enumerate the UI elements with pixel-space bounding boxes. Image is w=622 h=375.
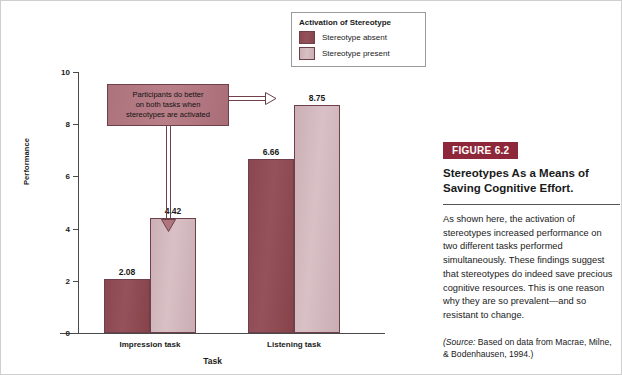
group-label-impression-task: Impression task (90, 340, 210, 349)
y-tick-mark (73, 333, 78, 334)
bar-impression-task-stereotype-absent: 2.08 (104, 279, 150, 333)
y-axis-label: Performance (22, 138, 31, 185)
figure-caption-panel: FIGURE 6.2 Stereotypes As a Means of Sav… (443, 0, 622, 375)
callout-arrow-down-shaft (166, 126, 167, 221)
callout-line-1: Participants do better (112, 90, 224, 100)
y-tick-label: 4 (66, 224, 70, 233)
bar-listening-task-stereotype-present: 8.75 (294, 105, 340, 333)
bar-value-label: 6.66 (263, 147, 280, 157)
callout-line-3: stereotypes are activated (112, 110, 224, 120)
bar-impression-task-stereotype-present: 4.42 (150, 218, 196, 333)
bar-value-label: 8.75 (309, 93, 326, 103)
y-tick-label: 10 (61, 68, 70, 77)
legend-item-stereotype-absent: Stereotype absent (299, 31, 418, 44)
y-tick-label: 0 (66, 329, 70, 338)
y-tick-label: 6 (66, 172, 70, 181)
legend-swatch-icon-absent (299, 31, 315, 44)
legend-swatch-icon-present (299, 47, 315, 60)
bar-value-label: 2.08 (119, 267, 136, 277)
bar-listening-task-stereotype-absent: 6.66 (248, 159, 294, 333)
annotation-callout: Participants do better on both tasks whe… (107, 84, 229, 126)
legend-label-absent: Stereotype absent (322, 33, 387, 42)
y-tick-label: 2 (66, 276, 70, 285)
callout-arrow-down-shaft-2 (170, 126, 171, 221)
panel-divider (443, 204, 620, 205)
figure-page: 0246810 Performance Task 2.084.426.668.7… (0, 0, 622, 375)
legend-label-present: Stereotype present (322, 49, 390, 58)
figure-number-badge: FIGURE 6.2 (443, 142, 518, 159)
source-keyword: (Source: (443, 337, 475, 347)
x-axis-line (60, 333, 385, 334)
y-tick-label: 8 (66, 120, 70, 129)
x-axis-label: Task (0, 356, 425, 366)
callout-arrow-right-shaft (229, 96, 267, 97)
bar-chart: 0246810 Performance Task 2.084.426.668.7… (0, 0, 425, 375)
figure-source-citation: (Source: Based on data from Macrae, Miln… (443, 336, 622, 361)
callout-arrow-right-shaft-2 (229, 100, 267, 101)
figure-title: Stereotypes As a Means of Saving Cogniti… (443, 166, 622, 196)
legend-title: Activation of Stereotype (299, 18, 418, 27)
legend-item-stereotype-present: Stereotype present (299, 47, 418, 60)
callout-arrow-right-head-icon (265, 92, 277, 105)
group-label-listening-task: Listening task (234, 340, 354, 349)
legend: Activation of Stereotype Stereotype abse… (291, 12, 426, 67)
callout-line-2: on both tasks when (112, 100, 224, 110)
figure-body-text: As shown here, the activation of stereot… (443, 213, 622, 323)
bar-value-label: 4.42 (165, 206, 182, 216)
callout-arrow-down-head-icon (161, 219, 176, 232)
